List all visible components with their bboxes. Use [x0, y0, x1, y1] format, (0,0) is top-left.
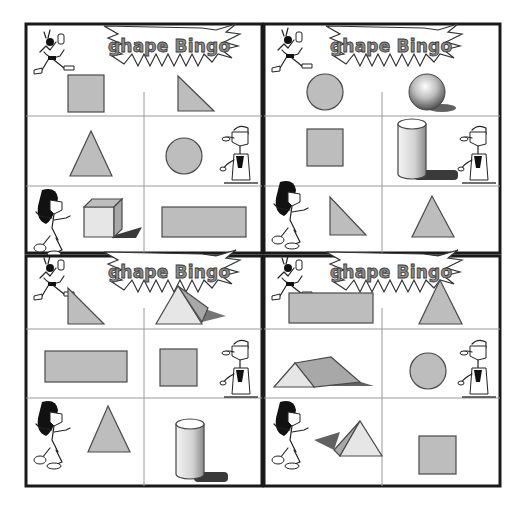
bingo-card-c: ghape Bingo [26, 250, 262, 486]
rectangle-shape [162, 207, 246, 237]
rectangle-shape [45, 351, 127, 382]
circle-shape [410, 353, 446, 389]
circle-shape [166, 138, 202, 174]
bingo-card-b: ghape Bingo [264, 24, 500, 253]
bingo-card-a: ghape Bingo [26, 24, 262, 257]
card-title: ghape Bingo [330, 36, 452, 56]
bingo-card-d: ghape Bingo [264, 250, 500, 486]
square-shape [307, 129, 343, 166]
card-title: ghape Bingo [108, 36, 230, 56]
bingo-sheet: ghape Bingo ghape Bingo [0, 0, 512, 506]
square-shape [419, 436, 456, 474]
rectangle-shape [289, 293, 373, 323]
circle-shape [307, 74, 343, 110]
square-shape [68, 75, 104, 112]
card-title: ghape Bingo [108, 262, 230, 282]
card-title: ghape Bingo [330, 262, 452, 282]
square-shape [160, 349, 197, 386]
